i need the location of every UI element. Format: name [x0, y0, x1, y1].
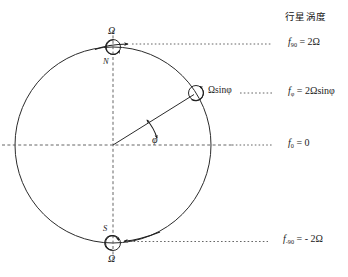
f0-value: 0: [305, 137, 310, 148]
figure-title: 行星涡度: [285, 12, 327, 22]
fphi-equals: =: [297, 85, 303, 96]
omega-sin-phi-label: Ωsinφ: [208, 86, 232, 96]
fphi-value: 2Ωsinφ: [305, 85, 335, 96]
f90-subscript: 90: [291, 41, 297, 48]
vorticity-label-f90: f90 = 2Ω: [288, 37, 320, 48]
vorticity-label-fm90: f-90 = - 2Ω: [283, 234, 323, 245]
f0-equals: =: [296, 137, 302, 148]
vorticity-label-f0: f0 = 0: [288, 138, 310, 149]
fm90-value: - 2Ω: [305, 233, 323, 244]
fphi-subscript: φ: [291, 90, 295, 97]
f90-value: 2Ω: [308, 36, 320, 47]
north-pole-omega-label: Ω: [108, 26, 115, 36]
vorticity-label-fphi: fφ = 2Ωsinφ: [288, 86, 335, 97]
f90-equals: =: [299, 36, 305, 47]
fm90-equals: =: [297, 233, 303, 244]
south-pole-letter: S: [103, 224, 107, 233]
north-pole-letter: N: [103, 57, 109, 66]
planetary-vorticity-diagram: 行星涡度 Ω N S Ω Ωsinφ φ f90 = 2Ω fφ = 2Ωsin…: [0, 0, 348, 277]
phi-angle-label: φ: [152, 135, 158, 145]
fm90-subscript: -90: [286, 238, 294, 245]
south-pole-omega-label: Ω: [108, 254, 115, 264]
f0-subscript: 0: [291, 142, 294, 149]
